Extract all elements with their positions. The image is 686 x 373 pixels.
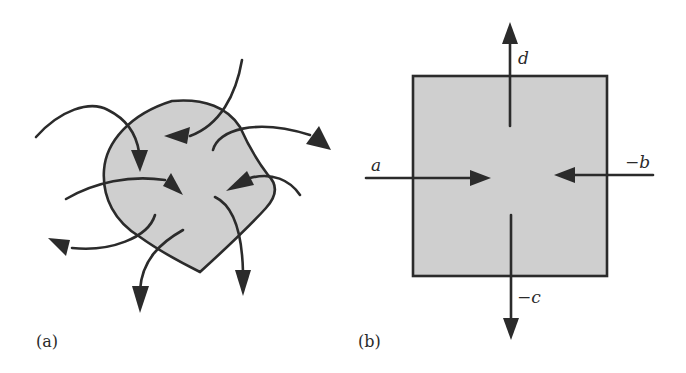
panel-a: (a) [36,60,331,351]
label-minus-c: −c [517,287,541,307]
panel-b: d a −b −c (b) [358,22,653,351]
label-minus-b: −b [625,152,650,172]
panel-b-label: (b) [358,332,381,351]
label-d: d [518,48,529,68]
figure: (a) d a −b −c (b) [0,0,686,373]
panel-a-label: (a) [36,332,58,351]
label-a: a [371,155,381,175]
